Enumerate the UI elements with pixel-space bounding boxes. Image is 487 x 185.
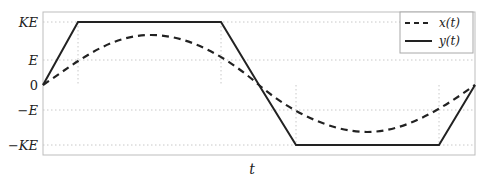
ytick-neg-ke: −KE (8, 138, 39, 153)
legend-label-x: x(t) (439, 16, 460, 30)
x-axis-label: t (249, 161, 255, 177)
ytick-neg-e: −E (18, 103, 39, 118)
legend: x(t) y(t) (400, 12, 473, 53)
ytick-zero: 0 (30, 78, 38, 93)
legend-box (400, 12, 473, 53)
ytick-ke: KE (18, 15, 39, 30)
ytick-e: E (28, 53, 39, 68)
legend-label-y: y(t) (438, 34, 460, 48)
chart: KE E 0 −E −KE x(t) y(t) t (0, 0, 487, 185)
